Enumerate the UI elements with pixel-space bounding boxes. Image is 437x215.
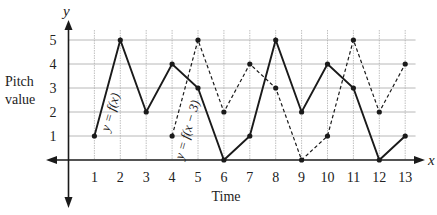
y-tick-label: 5: [50, 33, 57, 48]
x-tick-label: 6: [220, 170, 227, 185]
y-tick-label: 1: [50, 129, 57, 144]
x-axis-arrow-left-icon: [46, 156, 57, 164]
y-axis-arrow-down-icon: [65, 197, 73, 208]
x-tick-label: 3: [143, 170, 150, 185]
data-point: [247, 61, 252, 66]
data-point: [170, 61, 175, 66]
y-tick-label: 3: [50, 81, 57, 96]
x-tick-label: 7: [246, 170, 253, 185]
y-axis-variable: y: [61, 3, 70, 19]
x-tick-label: 11: [347, 170, 360, 185]
x-tick-label: 13: [398, 170, 412, 185]
x-axis-label: Time: [211, 189, 240, 204]
x-tick-label: 5: [195, 170, 202, 185]
data-point: [92, 133, 97, 138]
x-axis-variable: x: [427, 152, 435, 168]
data-point: [377, 157, 382, 162]
data-point: [221, 109, 226, 114]
x-tick-label: 2: [117, 170, 124, 185]
data-point: [170, 133, 175, 138]
x-tick-label: 8: [272, 170, 279, 185]
x-tick-label: 4: [169, 170, 176, 185]
data-point: [273, 37, 278, 42]
data-point: [403, 61, 408, 66]
data-point: [299, 157, 304, 162]
data-point: [247, 133, 252, 138]
y-tick-label: 2: [50, 105, 57, 120]
x-tick-label: 1: [91, 170, 98, 185]
data-point: [144, 109, 149, 114]
data-point: [403, 133, 408, 138]
data-point: [325, 61, 330, 66]
data-point: [325, 133, 330, 138]
data-point: [195, 85, 200, 90]
data-point: [273, 85, 278, 90]
x-tick-label: 10: [321, 170, 335, 185]
x-tick-label: 12: [372, 170, 386, 185]
x-tick-label: 9: [298, 170, 305, 185]
data-point: [299, 109, 304, 114]
data-point: [221, 157, 226, 162]
y-tick-label: 4: [50, 57, 57, 72]
y-axis-label-line1: Pitch: [5, 74, 34, 89]
data-point: [351, 37, 356, 42]
y-axis-arrow-up-icon: [65, 20, 73, 30]
chart: 1234567891011121312345 y x Pitch value T…: [0, 0, 437, 215]
x-axis-arrow-right-icon: [414, 156, 425, 164]
data-point: [118, 37, 123, 42]
data-point: [195, 37, 200, 42]
data-point: [351, 85, 356, 90]
y-axis-label-line2: value: [5, 92, 35, 107]
series-f-shift-line: [172, 40, 405, 160]
data-point: [377, 109, 382, 114]
